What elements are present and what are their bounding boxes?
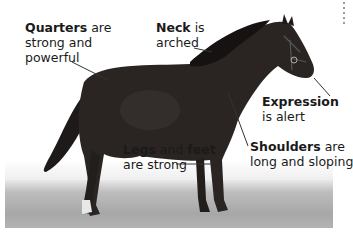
neck-label: Neck is arched: [156, 20, 205, 50]
expression-label: Expression is alert: [262, 94, 339, 124]
dotted-margin-rule: [343, 2, 346, 27]
legs-feet-label: Legs and feet are strong: [123, 142, 216, 172]
shoulders-label: Shoulders are long and sloping: [250, 139, 353, 169]
quarters-label: Quarters are strong and powerful: [25, 20, 111, 65]
